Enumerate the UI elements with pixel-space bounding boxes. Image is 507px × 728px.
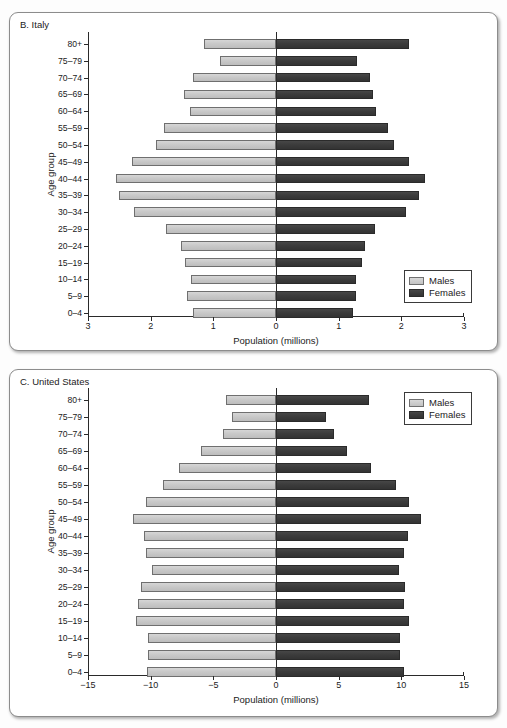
y-axis-tick (84, 229, 88, 230)
x-axis-tick-label: 2 (148, 321, 153, 331)
bar-female (276, 667, 404, 677)
y-axis-tick (84, 195, 88, 196)
bar-female (276, 275, 356, 285)
plot-area-italy: 80+75–7970–7465–6960–6455–5950–5445–4940… (88, 32, 464, 317)
bar-male (144, 531, 276, 541)
y-axis-tick-label: 10–14 (58, 633, 82, 643)
bar-male (226, 395, 276, 405)
bar-male (141, 582, 276, 592)
bar-male (220, 56, 276, 66)
bar-female (276, 39, 409, 49)
bar-male (134, 207, 276, 217)
bar-female (276, 258, 362, 268)
y-axis-tick-label: 30–34 (58, 207, 82, 217)
bar-male (185, 258, 276, 268)
legend-label-male: Males (429, 275, 454, 286)
y-axis-title: Age group (45, 502, 56, 562)
panel-us-title: C. United States (20, 376, 89, 387)
y-axis-tick (84, 128, 88, 129)
y-axis-tick-label: 0–4 (68, 308, 82, 318)
y-axis-tick (84, 111, 88, 112)
bar-male (119, 191, 276, 201)
legend-swatch-male-icon (409, 399, 424, 407)
legend-label-female: Females (429, 409, 465, 420)
bar-male (191, 275, 276, 285)
bar-female (276, 291, 356, 301)
bar-female (276, 599, 404, 609)
legend: MalesFemales (404, 270, 472, 303)
legend-item-female: Females (409, 287, 465, 298)
x-axis-tick-label: −10 (143, 680, 158, 690)
legend-item-female: Females (409, 409, 465, 420)
y-axis-tick (84, 179, 88, 180)
y-axis-tick-label: 70–74 (58, 429, 82, 439)
y-axis-tick (84, 78, 88, 79)
y-axis-tick (84, 44, 88, 45)
y-axis-tick (84, 434, 88, 435)
bar-male (132, 157, 276, 167)
y-axis-tick (84, 313, 88, 314)
y-axis-tick (84, 94, 88, 95)
bar-male (147, 667, 276, 677)
bar-female (276, 207, 406, 217)
panel-italy-title: B. Italy (20, 19, 49, 30)
bar-male (166, 224, 276, 234)
bar-female (276, 174, 425, 184)
y-axis-tick-label: 80+ (67, 395, 82, 405)
y-axis-tick-label: 60–64 (58, 463, 82, 473)
y-axis-tick-label: 5–9 (68, 650, 82, 660)
bar-male (146, 497, 276, 507)
y-axis-tick-label: 65–69 (58, 89, 82, 99)
y-axis-tick-label: 20–24 (58, 241, 82, 251)
y-axis-tick (84, 61, 88, 62)
y-axis-tick (84, 279, 88, 280)
bar-female (276, 446, 347, 456)
y-axis-tick-label: 40–44 (58, 174, 82, 184)
x-axis-tick-label: −15 (80, 680, 95, 690)
bar-male (223, 429, 276, 439)
x-axis-tick-label: 15 (459, 680, 469, 690)
y-axis-tick-label: 15–19 (58, 616, 82, 626)
x-axis-tick-label: 2 (399, 321, 404, 331)
y-axis-tick (84, 638, 88, 639)
clipped-header-text (0, 0, 507, 9)
bar-female (276, 241, 365, 251)
bar-male (190, 107, 276, 117)
bar-female (276, 224, 375, 234)
legend: MalesFemales (404, 392, 472, 425)
bar-female (276, 429, 334, 439)
y-axis-line (88, 388, 89, 676)
x-axis-tick-label: 1 (211, 321, 216, 331)
bar-male (148, 650, 276, 660)
bar-male (204, 39, 276, 49)
y-axis-tick-label: 35–39 (58, 548, 82, 558)
y-axis-tick (84, 655, 88, 656)
bar-male (184, 90, 276, 100)
y-axis-tick-label: 75–79 (58, 412, 82, 422)
bar-female (276, 531, 408, 541)
bar-female (276, 73, 370, 83)
bar-male (193, 73, 276, 83)
panel-united-states: C. United States 80+75–7970–7465–6960–64… (9, 369, 498, 717)
y-axis-tick-label: 55–59 (58, 123, 82, 133)
bar-female (276, 308, 353, 318)
y-axis-tick-label: 0–4 (68, 667, 82, 677)
bar-male (187, 291, 276, 301)
bar-male (156, 140, 276, 150)
legend-label-male: Males (429, 397, 454, 408)
y-axis-tick-label: 65–69 (58, 446, 82, 456)
y-axis-tick (84, 296, 88, 297)
y-axis-tick (84, 451, 88, 452)
y-axis-tick-label: 35–39 (58, 190, 82, 200)
legend-swatch-male-icon (409, 277, 424, 285)
bar-female (276, 412, 326, 422)
y-axis-tick (84, 485, 88, 486)
bar-female (276, 548, 404, 558)
bar-male (181, 241, 276, 251)
bar-male (179, 463, 276, 473)
x-axis-tick-label: 3 (461, 321, 466, 331)
bar-male (201, 446, 276, 456)
bar-female (276, 123, 388, 133)
bar-female (276, 463, 371, 473)
bar-male (146, 548, 276, 558)
